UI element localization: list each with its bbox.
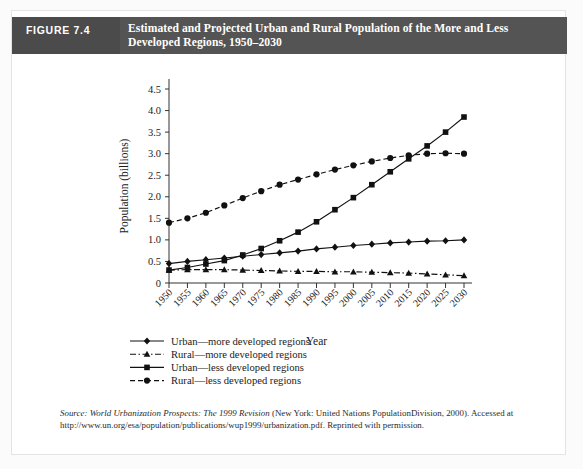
data-point [166, 220, 172, 226]
data-point [276, 249, 282, 256]
data-point [461, 114, 467, 120]
data-point [332, 167, 338, 173]
data-point [185, 265, 191, 271]
x-tick-label: 1975 [245, 287, 267, 309]
data-point [443, 129, 449, 135]
data-point [313, 268, 320, 274]
x-tick-label: 1995 [318, 287, 340, 309]
x-tick-label: 2025 [429, 287, 451, 309]
data-point [369, 182, 375, 188]
x-tick-label: 2030 [447, 287, 469, 309]
x-tick-label: 2020 [411, 287, 433, 309]
y-tick-label: 2.0 [148, 191, 161, 202]
data-point [350, 242, 356, 249]
legend-label: Urban—less developed regions [171, 362, 304, 373]
legend-item-1[interactable]: Urban—more developed regions [130, 336, 310, 347]
data-point [203, 210, 209, 216]
x-tick-label: 2005 [355, 287, 377, 309]
y-axis-title: Population (billions) [118, 138, 131, 233]
data-point [240, 195, 246, 201]
data-point [313, 245, 319, 252]
y-tick-label: 4.0 [148, 105, 161, 116]
data-point [461, 151, 467, 157]
x-tick-label: 1955 [171, 287, 193, 309]
data-point [258, 188, 264, 194]
data-point [166, 267, 172, 273]
data-point [387, 239, 393, 246]
x-tick-label: 1990 [300, 287, 322, 309]
data-point [295, 176, 301, 182]
legend-label: Rural—less developed regions [171, 375, 301, 386]
data-point [332, 244, 338, 251]
y-tick-label: 1.5 [148, 213, 161, 224]
data-point [424, 238, 430, 245]
x-tick-label: 1985 [282, 287, 304, 309]
chart-container: 00.51.01.52.02.53.03.54.04.5195019551960… [12, 56, 567, 401]
data-point [184, 258, 190, 265]
data-point [295, 247, 301, 254]
x-tick-label: 1965 [208, 287, 230, 309]
data-point [350, 162, 356, 168]
legend-item-2[interactable]: Rural—more developed regions [130, 349, 307, 360]
data-point [203, 261, 209, 267]
data-point [184, 215, 190, 221]
y-tick-label: 4.5 [148, 84, 161, 95]
data-point [369, 158, 375, 164]
data-point [277, 182, 283, 188]
figure-card: FIGURE 7.4 Estimated and Projected Urban… [11, 10, 566, 455]
legend-marker [144, 337, 150, 344]
legend-item-4[interactable]: Rural—less developed regions [130, 375, 301, 386]
legend-item-3[interactable]: Urban—less developed regions [130, 362, 304, 373]
series-4 [166, 150, 467, 226]
series-line [169, 153, 464, 222]
data-point [277, 238, 283, 244]
data-point [221, 202, 227, 208]
figure-title-line-1: Estimated and Projected Urban and Rural … [128, 22, 551, 36]
data-point [258, 246, 264, 252]
figure-title-line-2: Developed Regions, 1950–2030 [128, 36, 551, 50]
line-chart: 00.51.01.52.02.53.03.54.04.5195019551960… [12, 56, 567, 401]
x-tick-label: 2015 [392, 287, 414, 309]
y-tick-label: 3.0 [148, 148, 161, 159]
y-tick-label: 0.5 [148, 256, 161, 267]
data-point [295, 229, 301, 235]
data-point [405, 238, 411, 245]
x-tick-label: 2010 [374, 287, 396, 309]
data-point [442, 150, 448, 156]
figure-title: Estimated and Projected Urban and Rural … [120, 17, 567, 54]
data-point [387, 155, 393, 161]
source-note: Source: World Urbanization Prospects: Th… [60, 407, 552, 432]
data-point [461, 236, 467, 243]
legend-label: Urban—more developed regions [171, 336, 310, 347]
data-point [424, 143, 430, 149]
source-title: World Urbanization Prospects: The 1999 R… [90, 408, 270, 418]
data-point [222, 258, 228, 264]
data-point [387, 269, 394, 275]
y-tick-label: 0 [156, 278, 161, 289]
data-point [314, 219, 320, 225]
series-2 [166, 266, 468, 278]
data-point [424, 151, 430, 157]
data-point [351, 195, 357, 201]
x-tick-label: 2000 [337, 287, 359, 309]
data-point [350, 268, 357, 274]
y-tick-label: 3.5 [148, 127, 161, 138]
x-tick-label: 1950 [152, 287, 174, 309]
data-point [406, 152, 412, 158]
data-point [258, 251, 264, 258]
figure-number: FIGURE 7.4 [12, 17, 120, 54]
figure-header: FIGURE 7.4 Estimated and Projected Urban… [12, 17, 567, 54]
legend-marker [144, 378, 150, 384]
x-tick-label: 1970 [226, 287, 248, 309]
legend-marker [144, 365, 150, 371]
data-point [369, 241, 375, 248]
y-tick-label: 2.5 [148, 170, 161, 181]
data-point [387, 169, 393, 175]
data-point [332, 207, 338, 213]
figure-page: FIGURE 7.4 Estimated and Projected Urban… [0, 0, 583, 469]
y-tick-label: 1.0 [148, 234, 161, 245]
data-point [313, 171, 319, 177]
source-prefix: Source: [60, 408, 87, 418]
data-point [240, 252, 246, 258]
x-tick-label: 1960 [189, 287, 211, 309]
